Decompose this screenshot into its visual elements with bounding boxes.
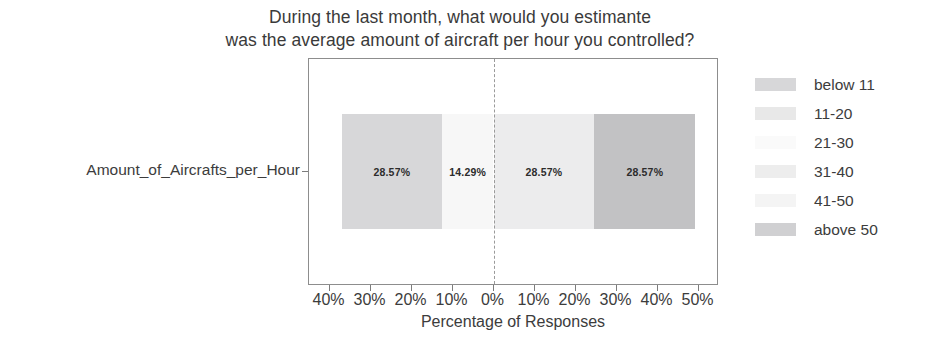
- bar-value-label: 28.57%: [373, 166, 410, 178]
- x-axis-tick-label: 10%: [517, 291, 549, 309]
- legend-item-label: below 11: [814, 76, 875, 94]
- legend-item-21-30[interactable]: 21-30: [755, 128, 920, 157]
- y-axis-tick-mark: [302, 171, 308, 172]
- legend-item-label: 31-40: [814, 163, 854, 181]
- legend-swatch-icon: [755, 136, 796, 149]
- legend-item-below-11[interactable]: below 11: [755, 70, 920, 99]
- bar-value-label: 14.29%: [449, 166, 486, 178]
- legend-swatch-icon: [755, 78, 796, 91]
- bar-segment-above-50: 28.57%: [594, 114, 695, 229]
- legend-swatch-icon: [755, 165, 796, 178]
- x-axis-tick-label: 50%: [681, 291, 713, 309]
- legend-item-label: 21-30: [814, 134, 854, 152]
- legend-item-11-20[interactable]: 11-20: [755, 99, 920, 128]
- legend-item-31-40[interactable]: 31-40: [755, 157, 920, 186]
- legend-swatch-icon: [755, 107, 796, 120]
- plot-area: 28.57%14.29%28.57%28.57%: [308, 58, 718, 285]
- legend-item-label: 41-50: [814, 192, 854, 210]
- zero-reference-line: [494, 59, 495, 284]
- legend-item-41-50[interactable]: 41-50: [755, 186, 920, 215]
- bar-value-label: 28.57%: [626, 166, 663, 178]
- x-axis-tick-label: 0%: [481, 291, 504, 309]
- legend-item-label: above 50: [814, 221, 878, 239]
- x-axis-tick-label: 10%: [435, 291, 467, 309]
- legend-item-above-50[interactable]: above 50: [755, 215, 920, 244]
- x-axis-tick-label: 30%: [353, 291, 385, 309]
- legend-item-label: 11-20: [814, 105, 853, 123]
- bar-segment-11-20: 14.29%: [442, 114, 494, 229]
- x-axis-tick-label: 30%: [599, 291, 631, 309]
- chart-title: During the last month, what would you es…: [180, 6, 740, 52]
- legend-swatch-icon: [755, 223, 796, 236]
- legend: below 1111-2021-3031-4041-50above 50: [755, 70, 920, 244]
- bar-segment-below-11: 28.57%: [342, 114, 442, 229]
- x-axis-title: Percentage of Responses: [308, 313, 718, 331]
- bar-value-label: 28.57%: [526, 166, 563, 178]
- x-axis-tick-labels: 40%30%20%10%0%10%20%30%40%50%: [288, 291, 738, 313]
- x-axis-tick-label: 40%: [312, 291, 344, 309]
- diverging-stacked-bar: 28.57%14.29%28.57%28.57%: [309, 59, 717, 284]
- x-axis-tick-label: 20%: [558, 291, 590, 309]
- bar-segment-31-40: 28.57%: [494, 114, 595, 229]
- y-axis-category-label: Amount_of_Aircrafts_per_Hour: [28, 161, 300, 179]
- legend-swatch-icon: [755, 194, 796, 207]
- x-axis-tick-label: 20%: [394, 291, 426, 309]
- chart-title-line-2: was the average amount of aircraft per h…: [180, 29, 740, 52]
- x-axis-tick-label: 40%: [640, 291, 672, 309]
- chart-title-line-1: During the last month, what would you es…: [180, 6, 740, 29]
